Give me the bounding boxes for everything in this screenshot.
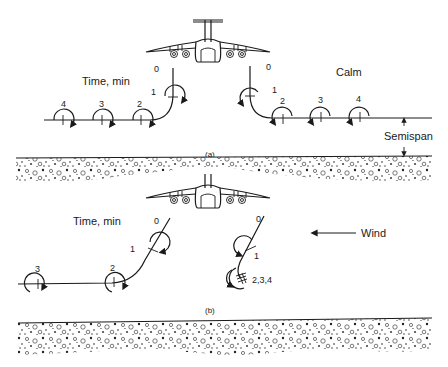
time-4-right-a: 4 — [356, 94, 361, 104]
calm-label: Calm — [336, 66, 362, 78]
aircraft-icon — [146, 20, 270, 62]
aircraft-icon — [146, 174, 270, 208]
panel-a: Time, min Calm 0 1 2 3 4 0 1 2 3 4 — [16, 20, 433, 182]
time-2-left-a: 2 — [137, 99, 142, 109]
time-4-left-a: 4 — [61, 99, 66, 109]
time-1-left-a: 1 — [151, 87, 156, 97]
wind-label: Wind — [361, 227, 386, 239]
left-vortex-markers-a — [54, 85, 185, 125]
ground-strip-b — [18, 318, 432, 355]
semispan-label: Semispan — [384, 130, 433, 142]
time-0-right-a: 0 — [266, 62, 271, 72]
right-vortex-path-b — [238, 216, 264, 278]
time-0-left-b: 0 — [154, 216, 159, 226]
time-label-a: Time, min — [82, 75, 130, 87]
wake-vortex-diagram: Time, min Calm 0 1 2 3 4 0 1 2 3 4 — [0, 0, 448, 367]
time-label-b: Time, min — [73, 215, 121, 227]
time-3-right-a: 3 — [318, 95, 323, 105]
time-0-right-b: 0 — [256, 214, 261, 224]
time-2-right-a: 2 — [280, 96, 285, 106]
panel-b: Time, min Wind 0 1 2 3 0 1 2,3,4 (b) — [18, 174, 432, 355]
time-3-left-b: 3 — [35, 264, 40, 274]
time-3-left-a: 3 — [99, 99, 104, 109]
time-0-left-a: 0 — [154, 64, 159, 74]
time-2-left-b: 2 — [110, 263, 115, 273]
time-1-right-a: 1 — [272, 85, 277, 95]
time-2-3-4-right-b: 2,3,4 — [252, 275, 272, 285]
caption-b: (b) — [205, 306, 215, 315]
time-1-left-b: 1 — [130, 244, 135, 254]
ground-strip-a — [16, 156, 432, 182]
time-1-right-b: 1 — [254, 251, 259, 261]
left-vortex-path-b — [18, 218, 170, 284]
